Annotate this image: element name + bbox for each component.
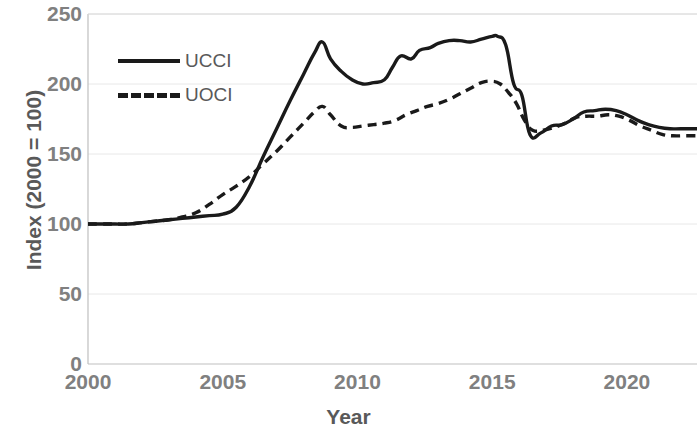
x-axis-tick-label: 2015 (452, 371, 532, 392)
legend-swatch-solid-line-icon (118, 54, 180, 68)
legend-line-glyph (118, 93, 180, 98)
x-axis-tick-labels: 20002005201020152020 (0, 371, 697, 405)
x-axis-tick-label: 2010 (317, 371, 397, 392)
legend-label: UOCI (185, 84, 233, 106)
legend-label: UCCI (185, 50, 231, 72)
x-axis-tick-label: 2020 (587, 371, 667, 392)
legend-item-ucci: UCCI (118, 44, 278, 78)
legend-swatch-dashed-line-icon (118, 88, 180, 102)
y-axis-title: Index (2000 = 100) (22, 50, 46, 310)
legend-item-uoci: UOCI (118, 78, 278, 112)
line-chart: 050100150200250 Index (2000 = 100) 20002… (0, 0, 697, 441)
x-axis-tick-label: 2000 (48, 371, 128, 392)
legend-line-glyph (118, 59, 180, 63)
y-axis-tick-label: 250 (36, 3, 82, 24)
chart-legend: UCCIUOCI (118, 44, 278, 112)
x-axis-title: Year (0, 405, 697, 429)
x-axis-tick-label: 2005 (183, 371, 263, 392)
